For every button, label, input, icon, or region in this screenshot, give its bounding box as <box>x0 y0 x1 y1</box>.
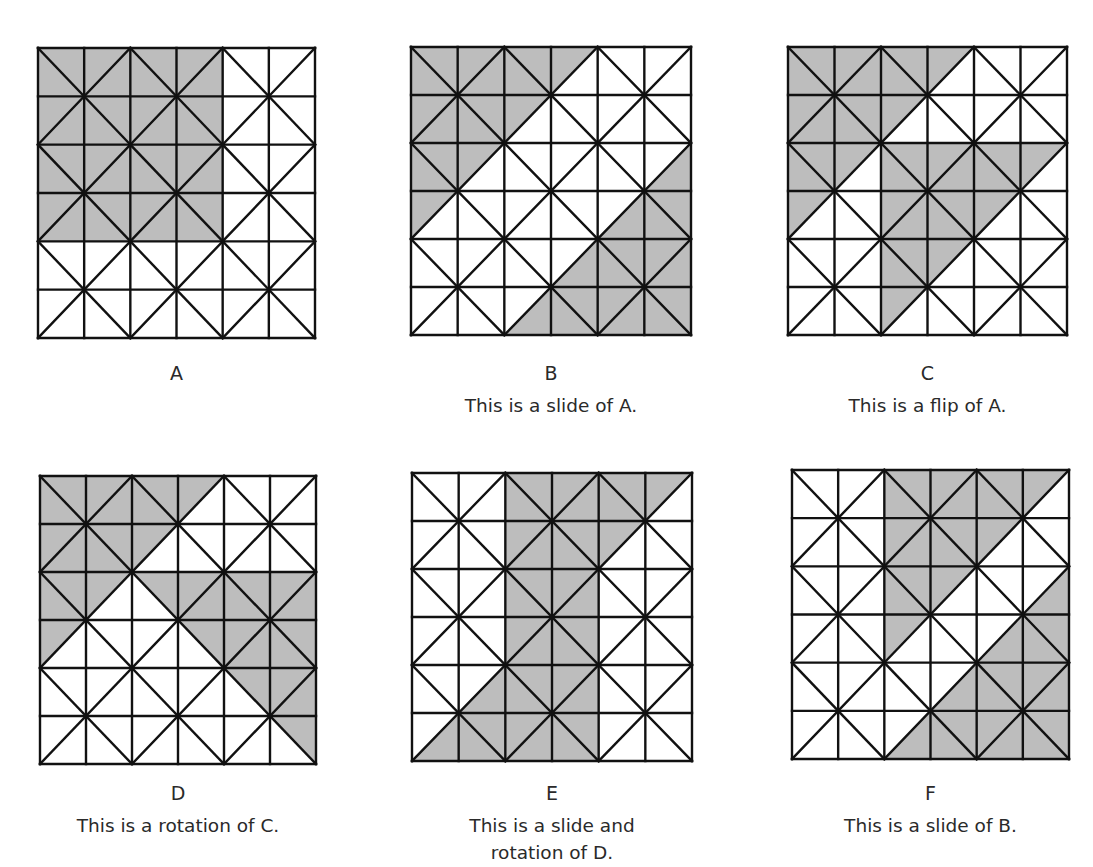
caption-c: This is a flip of A. <box>768 392 1088 419</box>
panel-b <box>411 47 691 335</box>
caption-c-line-1: This is a flip of A. <box>768 392 1088 419</box>
grid-c <box>788 47 1067 335</box>
label-b: B <box>451 362 651 384</box>
caption-e: This is a slide and rotation of D. <box>392 812 712 866</box>
label-c: C <box>828 362 1028 384</box>
grid-f <box>792 470 1069 759</box>
panel-d <box>40 476 316 764</box>
label-a: A <box>77 362 277 384</box>
panel-a <box>38 48 315 338</box>
panel-e <box>412 473 692 761</box>
grid-a <box>38 48 315 338</box>
grid-b <box>411 47 691 335</box>
caption-e-line-2: rotation of D. <box>392 839 712 866</box>
caption-d: This is a rotation of C. <box>18 812 338 839</box>
grid-d <box>40 476 316 764</box>
caption-b: This is a slide of A. <box>391 392 711 419</box>
caption-e-line-1: This is a slide and <box>392 812 712 839</box>
panel-f <box>792 470 1069 759</box>
grid-e <box>412 473 692 761</box>
label-e: E <box>452 782 652 804</box>
caption-f: This is a slide of B. <box>771 812 1091 839</box>
caption-f-line-1: This is a slide of B. <box>771 812 1091 839</box>
caption-b-line-1: This is a slide of A. <box>391 392 711 419</box>
caption-d-line-1: This is a rotation of C. <box>18 812 338 839</box>
label-f: F <box>831 782 1031 804</box>
label-d: D <box>78 782 278 804</box>
panel-c <box>788 47 1067 335</box>
